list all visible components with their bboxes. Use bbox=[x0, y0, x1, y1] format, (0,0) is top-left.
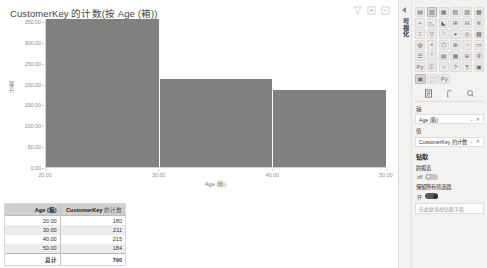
stacked-area-icon[interactable]: ◣ bbox=[439, 18, 449, 28]
column-header-age[interactable]: Age (箱) bbox=[5, 204, 60, 216]
visualizations-pane-body: ▤▥▦▧▨▩⌁◺◣⊞⊟≋⌶▽⁘◕◎▩◍◓⬡⊕◔▭☰⌃▤▦⊞ⓇPy⚿⑂?¶▣ ▣⬚… bbox=[412, 0, 487, 268]
drillthrough-drop-zone[interactable]: 在此处添加钻取字段 bbox=[415, 203, 484, 214]
chevron-down-icon[interactable]: ⌄ bbox=[470, 117, 474, 122]
y-axis-tick-label: 250.00 bbox=[25, 61, 41, 67]
column-header-customerkey-sub: 的计数 bbox=[104, 207, 122, 213]
visualization-extra-row[interactable]: ▣⬚Py bbox=[415, 74, 484, 84]
table-row[interactable]: 40.00215 bbox=[5, 235, 125, 244]
filter-icon[interactable] bbox=[353, 6, 362, 15]
y-axis-tick-label: 350.00 bbox=[25, 19, 41, 25]
table-icon[interactable]: ▦ bbox=[450, 51, 460, 61]
collapse-pane-icon[interactable] bbox=[402, 7, 406, 13]
bar-series bbox=[46, 20, 386, 167]
keep-all-filters-label: 保留所有筛选器 bbox=[416, 183, 484, 191]
card-icon[interactable]: ▭ bbox=[474, 40, 484, 50]
stacked-bar-chart-icon[interactable]: ▤ bbox=[415, 7, 425, 17]
cross-report-label: 跨报表 bbox=[416, 164, 484, 172]
drillthrough-drop-zone-text: 在此处添加钻取字段 bbox=[419, 205, 464, 212]
fields-tab-icon[interactable] bbox=[424, 89, 433, 98]
keep-all-filters-toggle[interactable] bbox=[425, 193, 438, 199]
table-row[interactable]: 20.00180 bbox=[5, 216, 125, 226]
pane-tabs[interactable] bbox=[415, 89, 484, 102]
visual-drag-handle[interactable]: ⋯ bbox=[7, 200, 12, 206]
waterfall-chart-icon[interactable]: ⌶ bbox=[415, 29, 425, 39]
smart-narrative-icon[interactable]: ¶ bbox=[462, 62, 472, 72]
y-axis-tick-label: 150.00 bbox=[25, 102, 41, 108]
gauge-icon[interactable]: ◔ bbox=[462, 40, 472, 50]
funnel-chart-icon[interactable]: ▽ bbox=[427, 29, 437, 39]
treemap-icon[interactable]: ▩ bbox=[474, 29, 484, 39]
plot-area[interactable] bbox=[45, 20, 386, 168]
kpi-icon[interactable]: ⌃ bbox=[427, 51, 437, 61]
line-chart-icon[interactable]: ⌁ bbox=[415, 18, 425, 28]
100-stacked-bar-icon[interactable]: ▨ bbox=[462, 7, 472, 17]
filled-map-icon[interactable]: ◓ bbox=[427, 40, 437, 50]
line-clustered-column-icon[interactable]: ⊟ bbox=[462, 18, 472, 28]
multi-row-card-icon[interactable]: ☰ bbox=[415, 51, 425, 61]
visualization-type-grid[interactable]: ▤▥▦▧▨▩⌁◺◣⊞⊟≋⌶▽⁘◕◎▩◍◓⬡⊕◔▭☰⌃▤▦⊞ⓇPy⚿⑂?¶▣ bbox=[415, 7, 484, 72]
shape-map-icon[interactable]: ⬡ bbox=[439, 40, 449, 50]
table-cell-age: 20.00 bbox=[5, 216, 60, 226]
table-header-row: Age (箱) CustomerKey 的计数 bbox=[5, 204, 125, 216]
table-cell-count: 184 bbox=[60, 244, 125, 254]
column-header-customerkey[interactable]: CustomerKey 的计数 bbox=[60, 204, 125, 216]
y-axis-title: 计数 bbox=[7, 82, 14, 93]
import-visual-icon[interactable]: ⬚ bbox=[427, 74, 438, 84]
get-more-visuals-icon[interactable]: ▣ bbox=[415, 74, 426, 84]
chevron-down-icon[interactable]: ⌄ bbox=[470, 139, 474, 144]
column-header-customerkey-label: CustomerKey bbox=[66, 207, 102, 213]
clustered-bar-chart-icon[interactable]: ▦ bbox=[439, 7, 449, 17]
python-visual-icon[interactable]: Py bbox=[415, 62, 425, 72]
data-table[interactable]: Age (箱) CustomerKey 的计数 20.0018030.00211… bbox=[5, 204, 125, 265]
donut-chart-icon[interactable]: ◎ bbox=[462, 29, 472, 39]
matrix-icon[interactable]: ⊞ bbox=[462, 51, 472, 61]
format-tab-icon[interactable] bbox=[445, 89, 454, 98]
y-axis-tick-label: 50.00 bbox=[28, 144, 41, 150]
bar[interactable] bbox=[160, 79, 274, 167]
arcgis-map-icon[interactable]: ⊕ bbox=[450, 40, 460, 50]
bar[interactable] bbox=[273, 90, 386, 167]
clustered-column-chart-icon[interactable]: ▧ bbox=[450, 7, 460, 17]
remove-field-icon[interactable]: ✕ bbox=[476, 139, 480, 144]
more-options-icon[interactable] bbox=[381, 6, 390, 15]
slicer-icon[interactable]: ▤ bbox=[439, 51, 449, 61]
report-canvas[interactable]: CustomerKey 的计数(按 Age (箱)) 计数 350.00300.… bbox=[0, 0, 398, 268]
decomposition-tree-icon[interactable]: ⑂ bbox=[439, 62, 449, 72]
q-and-a-icon[interactable]: ? bbox=[450, 62, 460, 72]
table-row[interactable]: 50.00184 bbox=[5, 244, 125, 254]
table-cell-age: 40.00 bbox=[5, 235, 60, 244]
cross-report-toggle[interactable] bbox=[425, 174, 438, 180]
visualizations-pane[interactable]: 可视化 ▤▥▦▧▨▩⌁◺◣⊞⊟≋⌶▽⁘◕◎▩◍◓⬡⊕◔▭☰⌃▤▦⊞ⓇPy⚿⑂?¶… bbox=[398, 0, 487, 268]
x-axis-tick-label: 20.00 bbox=[38, 172, 51, 178]
values-field-well[interactable]: CustomerKey 的计数 ⌄ ✕ bbox=[415, 137, 484, 147]
pie-chart-icon[interactable]: ◕ bbox=[450, 29, 460, 39]
line-stacked-column-icon[interactable]: ⊞ bbox=[450, 18, 460, 28]
r-script-visual-icon[interactable]: Ⓡ bbox=[474, 51, 484, 61]
data-table-visual[interactable]: ⋯ Age (箱) CustomerKey 的计数 20.0018030.002… bbox=[4, 203, 126, 266]
python-icon[interactable]: Py bbox=[439, 74, 450, 84]
pane-rail[interactable]: 可视化 bbox=[399, 0, 412, 268]
stacked-column-chart-icon[interactable]: ▥ bbox=[427, 7, 437, 17]
drillthrough-section-title: 钻取 bbox=[416, 152, 484, 161]
key-influencers-icon[interactable]: ⚿ bbox=[427, 62, 437, 72]
table-total-row: 总计790 bbox=[5, 253, 125, 265]
bar[interactable] bbox=[46, 19, 160, 167]
table-row[interactable]: 30.00211 bbox=[5, 225, 125, 234]
visual-header-icons bbox=[353, 6, 390, 15]
100-stacked-column-icon[interactable]: ▩ bbox=[474, 7, 484, 17]
keep-all-filters-toggle-row[interactable]: 开 bbox=[417, 193, 484, 200]
focus-mode-icon[interactable] bbox=[367, 6, 376, 15]
histogram-visual[interactable]: CustomerKey 的计数(按 Age (箱)) 计数 350.00300.… bbox=[4, 2, 394, 200]
area-chart-icon[interactable]: ◺ bbox=[427, 18, 437, 28]
ribbon-chart-icon[interactable]: ≋ bbox=[474, 18, 484, 28]
table-body: 20.0018030.0021140.0021550.00184总计790 bbox=[5, 216, 125, 265]
scatter-chart-icon[interactable]: ⁘ bbox=[439, 29, 449, 39]
cross-report-toggle-row[interactable]: off bbox=[417, 174, 484, 180]
remove-field-icon[interactable]: ✕ bbox=[476, 117, 480, 122]
axis-field-well[interactable]: Age (箱) ⌄ ✕ bbox=[415, 114, 484, 124]
map-icon[interactable]: ◍ bbox=[415, 40, 425, 50]
analytics-tab-icon[interactable] bbox=[466, 89, 475, 98]
y-axis-tick-label: 200.00 bbox=[25, 82, 41, 88]
paginated-report-icon[interactable]: ▣ bbox=[474, 62, 484, 72]
x-axis-ticks: 20.0030.0040.0050.00 bbox=[45, 169, 386, 179]
